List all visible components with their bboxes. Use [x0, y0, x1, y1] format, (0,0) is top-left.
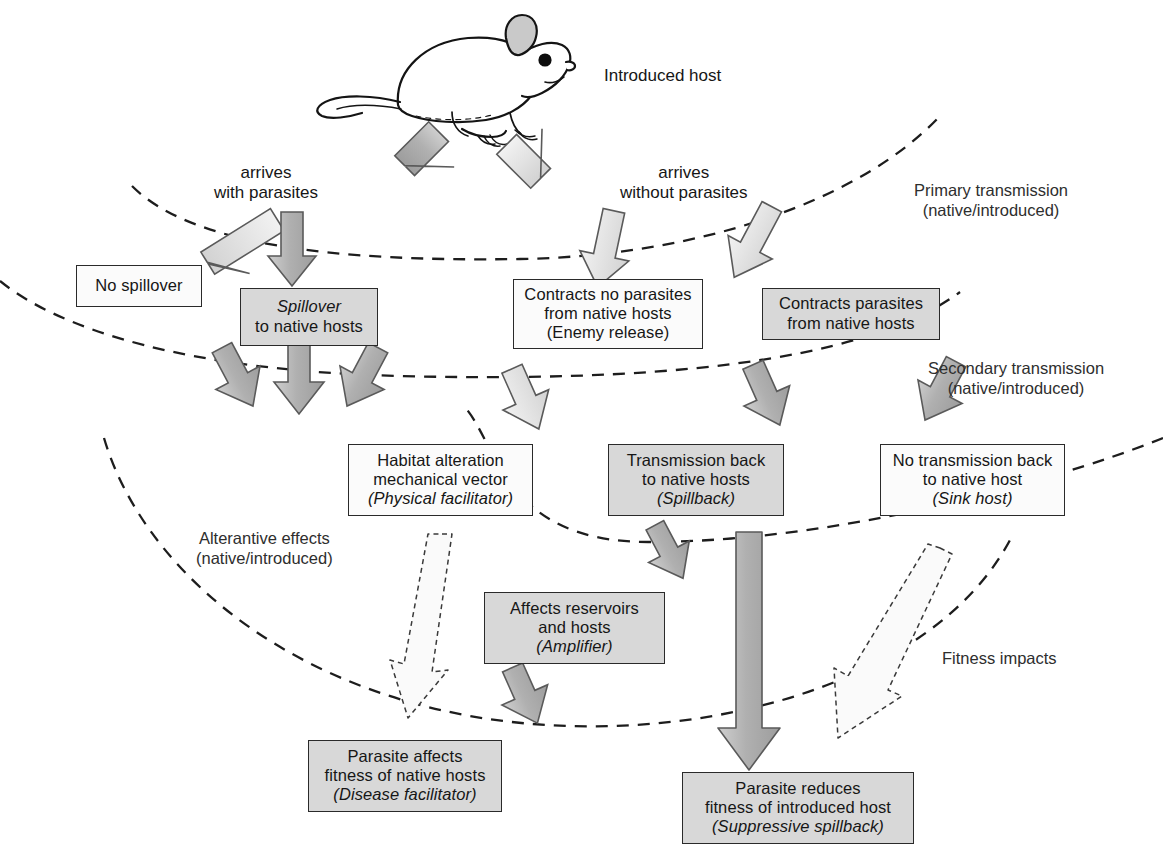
arrives-with-parasites-label: arrives with parasites: [214, 163, 318, 204]
arrow-sink-host-fitness: [834, 544, 952, 738]
node-contracts-parasites[interactable]: Contracts parasites from native hosts: [762, 288, 940, 340]
diagram-graphics-layer: [0, 0, 1163, 866]
arrow-to-affects-reservoirs: [635, 514, 704, 589]
node-contracts-no-parasites[interactable]: Contracts no parasites from native hosts…: [513, 279, 703, 349]
node-spillover-to-native-hosts[interactable]: Spillover to native hosts: [240, 288, 378, 346]
arrow-host-to-without-parasites: [497, 119, 566, 188]
node-no-spillover[interactable]: No spillover: [76, 265, 202, 307]
arrow-spillback-to-reduced-fitness: [718, 532, 780, 770]
node-parasite-reduces-fitness-introduced[interactable]: Parasite reduces fitness of introduced h…: [682, 772, 914, 844]
arrow-host-to-with-parasites: [395, 122, 464, 191]
arrow-to-habitat-alteration: [489, 359, 562, 440]
arrives-without-parasites-label: arrives without parasites: [620, 163, 748, 204]
zone-label-alternative-effects: Alterantive effects (native/introduced): [196, 528, 333, 568]
arrow-amplifier-to-parasite-affects: [490, 657, 560, 733]
diagram-canvas: Introduced host arrives with parasites a…: [0, 0, 1163, 866]
arrow-spillover-center: [274, 344, 324, 414]
arrow-to-no-spillover: [201, 209, 294, 290]
arrow-to-transmission-back: [730, 355, 803, 436]
arrow-to-parasite-affects-fitness: [390, 534, 452, 718]
zone-label-fitness-impacts: Fitness impacts: [942, 648, 1057, 668]
arrow-spillover-left: [200, 336, 275, 418]
zone-label-primary-transmission: Primary transmission (native/introduced): [914, 180, 1068, 220]
node-transmission-back-to-native-hosts[interactable]: Transmission back to native hosts (Spill…: [608, 444, 784, 516]
node-affects-reservoirs-and-hosts[interactable]: Affects reservoirs and hosts (Amplifier): [484, 592, 665, 664]
mouse-illustration: [317, 15, 575, 146]
arrow-to-contracts-parasites: [712, 195, 794, 289]
node-no-transmission-back[interactable]: No transmission back to native host (Sin…: [880, 444, 1065, 516]
introduced-host-label: Introduced host: [604, 66, 721, 86]
arrow-spillover-right: [325, 336, 400, 418]
node-habitat-alteration[interactable]: Habitat alteration mechanical vector (Ph…: [348, 444, 533, 516]
zone-label-secondary-transmission: Secondary transmission (native/introduce…: [928, 358, 1104, 398]
node-parasite-affects-fitness-native[interactable]: Parasite affects fitness of native hosts…: [308, 740, 502, 812]
